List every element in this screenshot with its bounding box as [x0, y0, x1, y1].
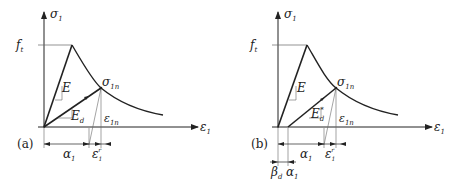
x-axis-label: ε1 — [434, 120, 445, 136]
x-axis-label: ε1 — [200, 120, 211, 136]
alpha-label: α1 — [300, 147, 313, 163]
eps-r-label: ε1r — [92, 146, 102, 162]
panel-b: σ1 ε1 ft E Ed* σ1n ε1n (b) α1 ε1r βd α1 — [249, 7, 445, 181]
sigma1n-label: σ1n — [337, 75, 355, 91]
Ed-star-label: Ed* — [310, 106, 325, 123]
softening-curve — [72, 45, 163, 115]
eps1n-label: ε1n — [104, 112, 119, 127]
ft-label: ft — [249, 38, 257, 54]
residual-line — [89, 88, 101, 145]
ft-label: ft — [15, 38, 23, 54]
alpha-label: α1 — [63, 147, 76, 163]
panel-tag: (a) — [17, 137, 34, 151]
E-label: E — [296, 81, 306, 95]
y-axis-label: σ1 — [284, 7, 297, 23]
E-label: E — [61, 81, 71, 95]
sigma1n-label: σ1n — [102, 75, 120, 91]
panel-tag: (b) — [251, 137, 268, 151]
y-axis-label: σ1 — [50, 7, 63, 23]
Ed-label: Ed — [70, 109, 85, 125]
beta-label: βd — [270, 165, 283, 181]
softening-curve — [307, 45, 398, 115]
eps1n-label: ε1n — [339, 112, 354, 127]
panel-a: σ1 ε1 ft E Ed σ1n ε1n (a) α1 ε1r — [15, 7, 211, 163]
eps-r-label: ε1r — [325, 146, 335, 162]
alpha2-label: α1 — [286, 165, 299, 181]
